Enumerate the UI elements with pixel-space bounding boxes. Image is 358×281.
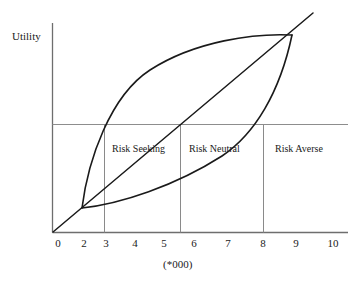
x-tick-label-3: 4 xyxy=(132,238,138,249)
chart-canvas xyxy=(0,0,358,281)
zone-label-risk-averse: Risk Averse xyxy=(275,144,323,154)
risk-neutral-line xyxy=(53,13,313,232)
x-tick-label-1: 2 xyxy=(81,238,87,249)
zone-label-risk-seeking: Risk Seeking xyxy=(112,144,165,154)
x-tick-label-4: 5 xyxy=(161,238,167,249)
utility-risk-preference-chart: Utility 0 2 3 4 5 6 7 8 9 10 (*000) Risk… xyxy=(0,0,358,281)
y-axis-title: Utility xyxy=(12,31,41,42)
x-tick-label-2: 3 xyxy=(103,238,109,249)
x-axis-title: (*000) xyxy=(163,259,192,270)
x-tick-label-9: 10 xyxy=(328,238,339,249)
risk-averse-curve xyxy=(82,35,292,208)
x-tick-label-0: 0 xyxy=(55,238,61,249)
x-tick-label-6: 7 xyxy=(225,238,231,249)
zone-label-risk-neutral: Risk Neutral xyxy=(189,144,240,154)
x-tick-label-5: 6 xyxy=(191,238,197,249)
x-tick-label-7: 8 xyxy=(260,238,266,249)
x-tick-label-8: 9 xyxy=(293,238,299,249)
